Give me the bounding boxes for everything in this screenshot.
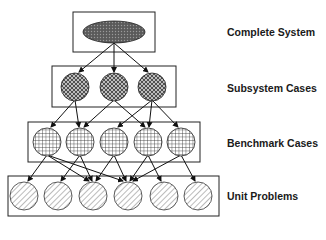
unit-node-4 — [114, 182, 142, 210]
benchmark-node-3 — [100, 128, 128, 156]
unit-node-5 — [150, 182, 178, 210]
unit-node-6 — [184, 182, 212, 210]
benchmark-nodes — [33, 128, 195, 156]
label-unit-problems: Unit Problems — [227, 190, 298, 202]
complete-system-node — [83, 21, 145, 43]
unit-node-3 — [79, 182, 107, 210]
benchmark-node-1 — [33, 128, 61, 156]
label-benchmark-cases: Benchmark Cases — [227, 137, 318, 149]
subsystem-node-2 — [100, 73, 128, 101]
label-subsystem-cases: Subsystem Cases — [227, 82, 317, 94]
label-complete-system: Complete System — [227, 26, 315, 38]
benchmark-node-4 — [134, 128, 162, 156]
unit-nodes — [10, 182, 212, 210]
subsystem-nodes — [61, 73, 166, 101]
unit-node-1 — [10, 182, 38, 210]
benchmark-node-2 — [66, 128, 94, 156]
edges — [28, 43, 195, 181]
subsystem-node-3 — [138, 73, 166, 101]
unit-node-2 — [44, 182, 72, 210]
benchmark-node-5 — [167, 128, 195, 156]
subsystem-node-1 — [61, 73, 89, 101]
